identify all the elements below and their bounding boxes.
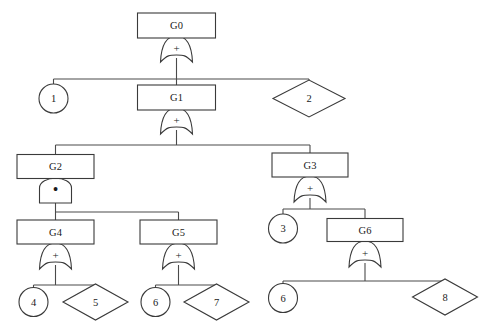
node-label-G6: G6 [359,225,372,236]
gate-symbol-G0: + [173,42,179,54]
node-label-E3: 3 [280,223,285,234]
node-label-E8: 6 [280,293,285,304]
gate-symbol-G4: + [52,249,58,261]
node-circle-E4[interactable]: 4 [19,288,48,317]
node-circle-E3[interactable]: 3 [269,214,298,243]
node-label-E9: 8 [442,292,447,303]
node-label-G4: G4 [49,227,63,238]
node-label-E4: 4 [31,297,37,308]
node-label-G0: G0 [170,20,183,31]
gate-symbol-G6: + [362,247,368,259]
node-rect-G5[interactable]: G5 [140,220,217,244]
node-label-G1: G1 [170,92,183,103]
node-rect-G1[interactable]: G1 [138,85,216,110]
node-circle-E1[interactable]: 1 [39,84,68,113]
node-circle-E6[interactable]: 6 [141,288,170,317]
node-rect-G3[interactable]: G3 [272,153,348,177]
gate-symbol-G1: + [173,114,179,126]
node-rect-G6[interactable]: G6 [327,219,403,242]
node-label-E2: 2 [306,93,311,104]
gate-symbol-G5: + [175,249,181,261]
fault-tree-diagram: ++•++++ G0G112G2G3G4G53G6456768 [0,0,493,334]
gate-and-G2: • [40,178,72,203]
node-label-G2: G2 [49,161,62,172]
node-circle-E8[interactable]: 6 [269,284,298,313]
node-label-E7: 7 [214,297,219,308]
node-label-E6: 6 [153,297,158,308]
node-rect-G0[interactable]: G0 [138,13,216,38]
gate-symbol-G3: + [307,182,313,194]
node-label-E1: 1 [51,93,56,104]
node-rect-G4[interactable]: G4 [17,220,94,244]
node-label-G5: G5 [172,227,185,238]
gate-symbol-G2: • [53,181,59,198]
node-label-G3: G3 [304,160,317,171]
node-label-E5: 5 [93,297,98,308]
node-rect-G2[interactable]: G2 [17,155,94,179]
